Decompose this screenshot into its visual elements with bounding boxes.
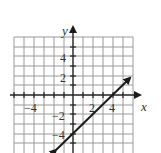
x-tick-label-4: 4 <box>109 101 115 115</box>
y-tick-label-neg2: −2 <box>52 109 65 123</box>
y-tick-label-4: 4 <box>60 51 66 65</box>
y-axis-label: y <box>60 23 68 38</box>
y-tick-label-neg4: −4 <box>52 128 65 142</box>
coordinate-plane: −4 2 4 4 2 −2 −4 x y <box>0 0 161 153</box>
y-tick-label-2: 2 <box>60 71 66 85</box>
x-axis-label: x <box>140 99 147 114</box>
x-tick-label-neg4: −4 <box>24 101 37 115</box>
